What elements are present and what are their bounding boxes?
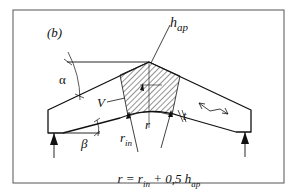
left-support-arrow-icon (50, 133, 58, 145)
alpha-arc (68, 52, 80, 100)
radius-formula: r = rin + 0,5 hap (111, 159, 200, 185)
apex-height-sub: ap (177, 21, 188, 33)
right-support-arrow-icon (241, 132, 249, 144)
apex-zone-hatch (120, 62, 180, 116)
panel-label: (b) (47, 26, 62, 39)
radius-label: r (145, 118, 150, 131)
inner-radius-sub: in (125, 138, 132, 148)
formula-mid: + 0,5 h (150, 171, 191, 186)
inner-radius-label: rin (120, 131, 132, 144)
formula-lhs: r = r (118, 171, 143, 186)
formula-sub-in: in (143, 179, 150, 189)
shear-arrow-icon (199, 103, 228, 114)
formula-sub-ap: ap (191, 179, 200, 189)
apex-height-leader (151, 25, 170, 63)
beta-tick-top (94, 118, 100, 122)
apex-height-label: hap (170, 16, 188, 30)
alpha-label: α (59, 73, 66, 86)
thickness-label: t (183, 110, 186, 122)
beta-tick-bottom (94, 131, 100, 136)
beta-label: β (81, 137, 87, 150)
apex-height-main: h (170, 15, 177, 30)
volume-label: V (97, 96, 105, 109)
radius-leader-right (161, 112, 171, 148)
volume-leader (107, 98, 125, 102)
